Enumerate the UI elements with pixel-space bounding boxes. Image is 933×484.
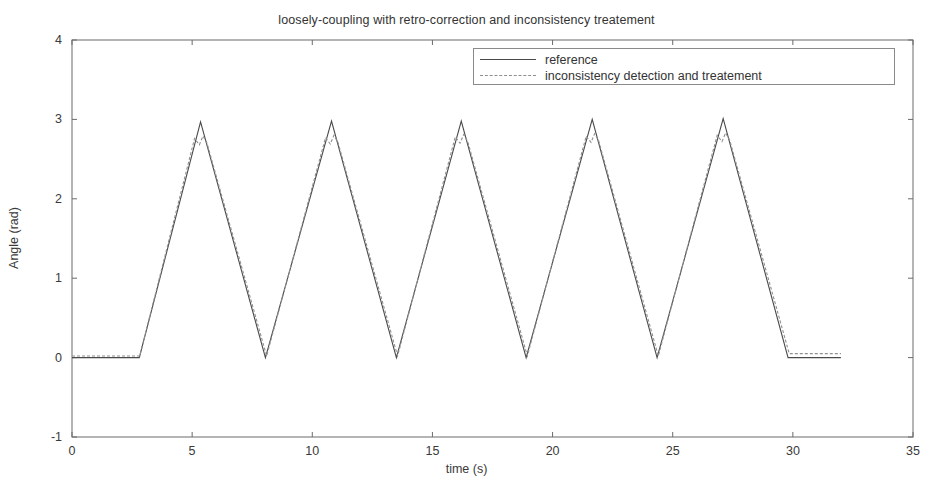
series-line-reference: [72, 119, 841, 358]
figure-canvas: loosely-coupling with retro-correction a…: [0, 0, 933, 484]
legend-swatch-solid-icon: [480, 55, 536, 65]
legend-label: inconsistency detection and treatement: [545, 69, 762, 83]
legend-label: reference: [545, 53, 598, 67]
tick-marks: [72, 40, 913, 437]
series-line-inconsistency-treatement: [72, 133, 841, 356]
legend-item-reference: reference: [480, 52, 598, 68]
legend-swatch-dashed-icon: [480, 71, 536, 81]
legend: reference inconsistency detection and tr…: [473, 48, 895, 85]
axes-frame: [72, 40, 913, 437]
legend-item-inconsistency-treatement: inconsistency detection and treatement: [480, 68, 762, 84]
